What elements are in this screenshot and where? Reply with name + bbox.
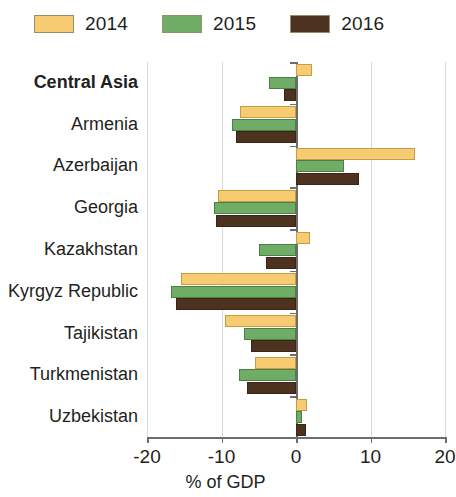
x-tick-label: -20 bbox=[133, 446, 160, 468]
x-axis-label: % of GDP bbox=[0, 472, 451, 493]
x-tick bbox=[222, 437, 224, 443]
bar-2016-georgia[interactable] bbox=[216, 215, 296, 227]
x-tick-label: -10 bbox=[208, 446, 235, 468]
legend-label-2016: 2016 bbox=[341, 13, 384, 35]
bar-2014-kyrgyz-republic[interactable] bbox=[181, 273, 296, 285]
row-tick bbox=[290, 104, 296, 106]
bar-2015-armenia[interactable] bbox=[232, 119, 296, 131]
legend-entry-2016[interactable]: 2016 bbox=[290, 13, 384, 35]
row-tick bbox=[290, 62, 296, 64]
bar-2014-central-asia[interactable] bbox=[296, 64, 312, 76]
bar-2016-uzbekistan[interactable] bbox=[296, 424, 306, 436]
bar-2015-azerbaijan[interactable] bbox=[296, 160, 344, 172]
bar-2015-central-asia[interactable] bbox=[269, 77, 296, 89]
row-tick bbox=[290, 271, 296, 273]
bar-2016-kyrgyz-republic[interactable] bbox=[176, 298, 296, 310]
bar-2015-kyrgyz-republic[interactable] bbox=[171, 286, 296, 298]
bar-2014-uzbekistan[interactable] bbox=[296, 399, 307, 411]
legend-entry-2014[interactable]: 2014 bbox=[34, 13, 128, 35]
legend-label-2014: 2014 bbox=[85, 13, 128, 35]
x-tick-label: 0 bbox=[291, 446, 302, 468]
legend-entry-2015[interactable]: 2015 bbox=[162, 13, 256, 35]
bar-2016-tajikistan[interactable] bbox=[251, 340, 296, 352]
category-label-turkmenistan: Turkmenistan bbox=[0, 364, 138, 385]
legend-swatch-2014 bbox=[34, 15, 74, 33]
bar-2015-uzbekistan[interactable] bbox=[296, 411, 302, 423]
x-tick bbox=[147, 437, 149, 443]
category-label-uzbekistan: Uzbekistan bbox=[0, 406, 138, 427]
row-tick bbox=[290, 187, 296, 189]
category-label-central-asia: Central Asia bbox=[0, 72, 138, 93]
bar-2016-kazakhstan[interactable] bbox=[266, 257, 296, 269]
plot-area bbox=[147, 62, 445, 438]
bar-2014-armenia[interactable] bbox=[240, 106, 296, 118]
gridline bbox=[147, 62, 148, 438]
bar-2015-kazakhstan[interactable] bbox=[259, 244, 296, 256]
bar-2015-turkmenistan[interactable] bbox=[239, 369, 296, 381]
x-tick bbox=[371, 437, 373, 443]
x-tick bbox=[445, 437, 447, 443]
bar-2015-tajikistan[interactable] bbox=[244, 328, 296, 340]
x-tick bbox=[296, 437, 298, 443]
gridline bbox=[222, 62, 223, 438]
gridline bbox=[371, 62, 372, 438]
zero-line bbox=[296, 62, 298, 438]
row-tick bbox=[290, 313, 296, 315]
bar-2015-georgia[interactable] bbox=[214, 202, 296, 214]
bar-2016-turkmenistan[interactable] bbox=[247, 382, 296, 394]
legend-label-2015: 2015 bbox=[213, 13, 256, 35]
legend-swatch-2016 bbox=[290, 15, 330, 33]
row-tick bbox=[290, 396, 296, 398]
row-tick bbox=[290, 146, 296, 148]
x-tick-label: 10 bbox=[360, 446, 381, 468]
row-tick bbox=[290, 229, 296, 231]
bar-2016-armenia[interactable] bbox=[236, 131, 296, 143]
category-label-georgia: Georgia bbox=[0, 197, 138, 218]
category-label-azerbaijan: Azerbaijan bbox=[0, 155, 138, 176]
bar-2014-tajikistan[interactable] bbox=[225, 315, 296, 327]
bar-2016-azerbaijan[interactable] bbox=[296, 173, 359, 185]
bar-2014-kazakhstan[interactable] bbox=[296, 232, 310, 244]
bar-2014-azerbaijan[interactable] bbox=[296, 148, 415, 160]
category-label-kazakhstan: Kazakhstan bbox=[0, 239, 138, 260]
gridline bbox=[445, 62, 446, 438]
bar-2014-georgia[interactable] bbox=[218, 190, 296, 202]
bar-2016-central-asia[interactable] bbox=[284, 89, 296, 101]
x-tick-label: 20 bbox=[434, 446, 455, 468]
chart-legend: 2014 2015 2016 bbox=[34, 12, 418, 36]
legend-swatch-2015 bbox=[162, 15, 202, 33]
category-label-tajikistan: Tajikistan bbox=[0, 323, 138, 344]
category-label-kyrgyz-republic: Kyrgyz Republic bbox=[0, 281, 138, 302]
category-label-armenia: Armenia bbox=[0, 114, 138, 135]
bar-2014-turkmenistan[interactable] bbox=[255, 357, 296, 369]
row-tick bbox=[290, 354, 296, 356]
